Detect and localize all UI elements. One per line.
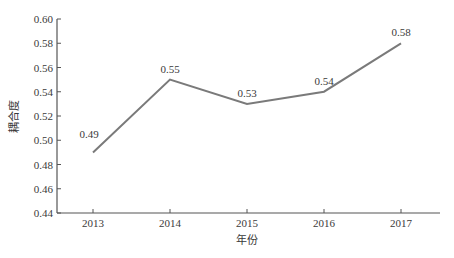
y-axis: 0.440.460.480.500.520.540.560.580.60 (34, 13, 61, 219)
y-tick-label: 0.58 (34, 37, 54, 49)
y-tick-label: 0.60 (34, 13, 54, 25)
data-point-label: 0.55 (160, 63, 180, 75)
y-tick-label: 0.56 (34, 62, 54, 74)
y-tick-label: 0.50 (34, 134, 54, 146)
y-tick-label: 0.44 (34, 207, 54, 219)
x-tick-label: 2013 (82, 217, 105, 229)
x-tick-label: 2017 (390, 217, 413, 229)
y-tick-label: 0.52 (34, 110, 53, 122)
data-point-label: 0.58 (391, 26, 411, 38)
x-tick-label: 2014 (159, 217, 182, 229)
data-labels: 0.490.550.530.540.58 (79, 26, 411, 140)
y-tick-label: 0.46 (34, 183, 54, 195)
x-axis: 20132014201520162017 (57, 209, 440, 229)
line-chart: 0.440.460.480.500.520.540.560.580.60 201… (0, 0, 454, 258)
x-axis-title: 年份 (236, 233, 258, 246)
y-tick-label: 0.54 (34, 86, 54, 98)
y-axis-title: 耦合度 (7, 100, 20, 133)
data-point-label: 0.53 (237, 87, 257, 99)
x-tick-label: 2015 (236, 217, 259, 229)
data-point-label: 0.54 (314, 75, 334, 87)
x-tick-label: 2016 (313, 217, 336, 229)
data-point-label: 0.49 (79, 128, 99, 140)
y-tick-label: 0.48 (34, 159, 54, 171)
